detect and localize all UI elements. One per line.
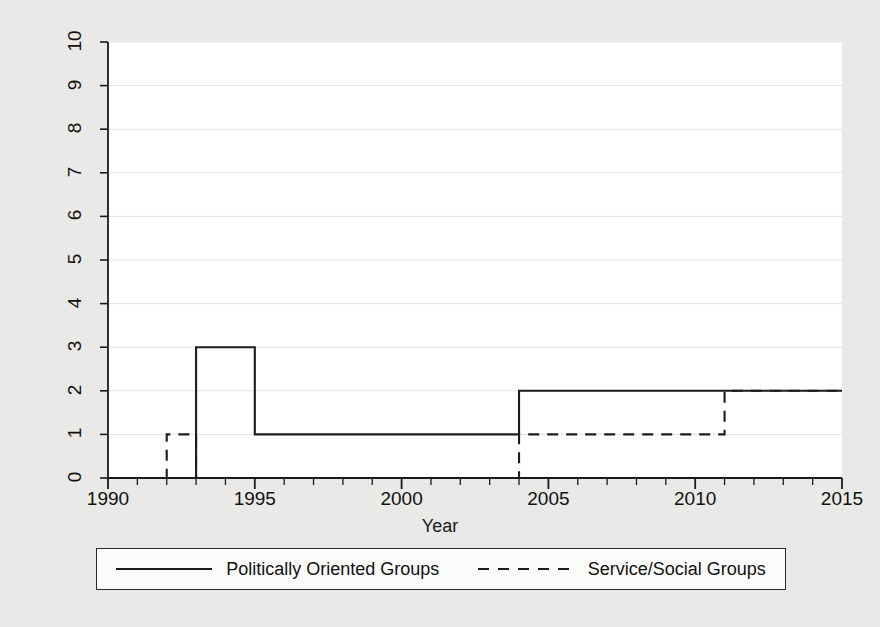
y-tick-label: 9 <box>64 72 86 98</box>
series-lines <box>108 347 842 478</box>
y-tick-label: 5 <box>64 246 86 272</box>
plot-area <box>108 42 842 478</box>
x-tick-label: 1995 <box>220 488 290 510</box>
legend-label: Service/Social Groups <box>588 559 766 580</box>
plot-svg <box>108 42 842 478</box>
y-tick-label: 1 <box>64 420 86 446</box>
x-tick-label: 2015 <box>807 488 877 510</box>
y-tick-label: 6 <box>64 202 86 228</box>
y-tick-label: 3 <box>64 333 86 359</box>
y-tick-label: 10 <box>64 28 86 54</box>
y-tick-label: 7 <box>64 159 86 185</box>
series-line-1 <box>108 347 842 478</box>
gridlines <box>108 42 842 478</box>
legend-label: Politically Oriented Groups <box>226 559 439 580</box>
chart-figure: Number of Groups 012345678910 1990199520… <box>0 0 880 627</box>
x-axis-title: Year <box>0 516 880 537</box>
legend-swatch-solid-icon <box>116 568 212 570</box>
y-axis-title: Number of Groups <box>0 0 4 95</box>
legend-entry-1[interactable]: Politically Oriented Groups <box>116 559 439 580</box>
y-tick-label: 0 <box>64 464 86 490</box>
y-tick-label: 2 <box>64 377 86 403</box>
x-tick-label: 2005 <box>513 488 583 510</box>
legend-swatch-dashed-icon <box>478 568 574 570</box>
chart-legend: Politically Oriented GroupsService/Socia… <box>96 548 786 590</box>
x-tick-label: 1990 <box>73 488 143 510</box>
y-tick-label: 8 <box>64 115 86 141</box>
x-tick-label: 2000 <box>367 488 437 510</box>
y-tick-label: 4 <box>64 290 86 316</box>
x-tick-label: 2010 <box>660 488 730 510</box>
legend-entry-2[interactable]: Service/Social Groups <box>478 559 766 580</box>
